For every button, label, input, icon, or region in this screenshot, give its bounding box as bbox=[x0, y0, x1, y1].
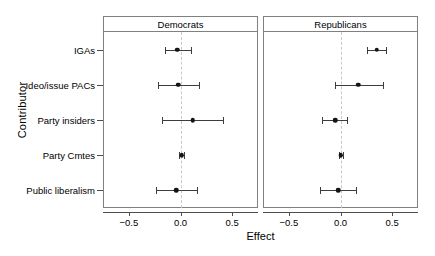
point-estimate bbox=[191, 118, 196, 123]
error-bar-cap bbox=[356, 187, 357, 194]
point-estimate bbox=[338, 153, 343, 158]
x-tick-mark bbox=[341, 212, 342, 216]
y-tick-label-party-insiders: Party insiders bbox=[0, 115, 95, 126]
x-axis-title: Effect bbox=[103, 230, 418, 242]
error-bar-cap bbox=[367, 47, 368, 54]
x-tick-label: −0.5 bbox=[113, 217, 145, 228]
error-bar-cap bbox=[347, 117, 348, 124]
point-estimate bbox=[374, 47, 379, 52]
y-tick-label-party-cmtes: Party Cmtes bbox=[0, 150, 95, 161]
error-bar-cap bbox=[386, 47, 387, 54]
point-estimate bbox=[333, 118, 338, 123]
x-tick-label: −0.5 bbox=[273, 217, 305, 228]
x-tick-mark bbox=[181, 212, 182, 216]
error-bar-cap bbox=[191, 47, 192, 54]
error-bar-cap bbox=[322, 117, 323, 124]
y-tick-label-public-liberalism: Public liberalism bbox=[0, 185, 95, 196]
panel-header-republicans-label: Republicans bbox=[314, 19, 366, 30]
error-bar-cap bbox=[199, 82, 200, 89]
coefficient-plot-figure: Contributor Effect Democrats Republicans… bbox=[0, 0, 435, 256]
y-tick-label-ideo-issue-pacs: Ideo/issue PACs bbox=[0, 79, 95, 90]
point-estimate bbox=[176, 83, 181, 88]
y-tick-mark bbox=[97, 85, 103, 86]
error-bar-cap bbox=[156, 187, 157, 194]
point-estimate bbox=[356, 83, 361, 88]
error-bar-cap bbox=[165, 47, 166, 54]
y-tick-mark bbox=[97, 120, 103, 121]
point-estimate bbox=[175, 47, 180, 52]
panel-header-republicans: Republicans bbox=[263, 16, 418, 32]
error-bar-cap bbox=[320, 187, 321, 194]
x-tick-mark bbox=[289, 212, 290, 216]
y-tick-mark bbox=[97, 50, 103, 51]
x-tick-mark bbox=[232, 212, 233, 216]
point-estimate bbox=[336, 188, 341, 193]
x-tick-label: 0.5 bbox=[376, 217, 408, 228]
panel-header-democrats: Democrats bbox=[103, 16, 258, 32]
error-bar-cap bbox=[162, 117, 163, 124]
y-tick-mark bbox=[97, 190, 103, 191]
y-tick-mark bbox=[97, 155, 103, 156]
y-tick-label-igas: IGAs bbox=[0, 44, 95, 55]
point-estimate bbox=[179, 153, 184, 158]
error-bar-cap bbox=[158, 82, 159, 89]
point-estimate bbox=[174, 188, 179, 193]
x-tick-label: 0.0 bbox=[325, 217, 357, 228]
panel-header-democrats-label: Democrats bbox=[158, 19, 204, 30]
x-tick-label: 0.5 bbox=[216, 217, 248, 228]
x-tick-mark bbox=[129, 212, 130, 216]
error-bar-cap bbox=[383, 82, 384, 89]
x-tick-label: 0.0 bbox=[165, 217, 197, 228]
error-bar-cap bbox=[335, 82, 336, 89]
x-tick-mark bbox=[392, 212, 393, 216]
error-bar-cap bbox=[223, 117, 224, 124]
error-bar-cap bbox=[197, 187, 198, 194]
